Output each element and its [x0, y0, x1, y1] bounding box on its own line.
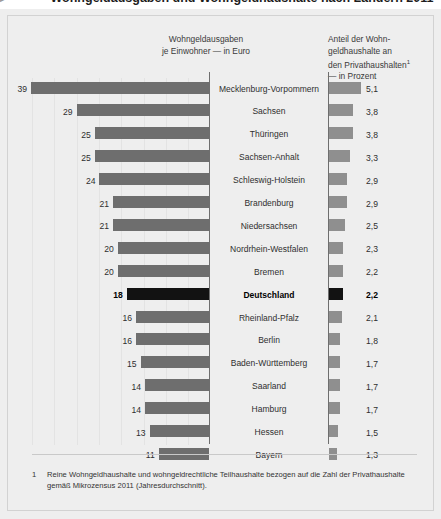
category-label: Berlin — [211, 335, 327, 345]
chart-row: 13Hessen1,5 — [8, 423, 435, 446]
left-bar — [99, 173, 209, 185]
left-bar — [95, 150, 209, 162]
left-value-label: 25 — [51, 153, 91, 163]
right-bar — [329, 82, 361, 94]
left-column-header: Wohngeldausgaben je Einwohner — in Euro — [118, 34, 294, 57]
chart-row: 39Mecklenburg-Vorpommern5,1 — [8, 79, 435, 102]
right-bar — [329, 311, 342, 323]
footnote-text: Reine Wohngeldhaushalte und wohngeldrech… — [47, 469, 422, 491]
right-bar — [329, 242, 343, 254]
right-bar — [329, 379, 340, 391]
page-title: Wohngeldausgaben und Wohngeldhaushalte n… — [51, 0, 434, 5]
left-value-label: 16 — [92, 336, 132, 346]
category-label: Mecklenburg-Vorpommern — [211, 84, 327, 94]
right-bar — [329, 288, 343, 300]
right-bar — [329, 196, 347, 208]
left-value-label: 21 — [69, 199, 109, 209]
left-bar — [95, 127, 209, 139]
right-column-header-line3: den Privathaushalten1 — [328, 57, 432, 71]
right-value-label: 1,7 — [366, 359, 378, 369]
chart-row: 21Brandenburg2,9 — [8, 194, 435, 217]
right-bar — [329, 219, 345, 231]
category-label: Brandenburg — [211, 198, 327, 208]
figure-panel-inner: Wohngeldausgaben je Einwohner — in Euro … — [7, 15, 434, 511]
chart-row: 14Saarland1,7 — [8, 377, 435, 400]
right-value-label: 1,8 — [366, 336, 378, 346]
right-column-header-line1: Anteil der Wohn- — [328, 34, 432, 46]
chart-row: 21Niedersachsen2,5 — [8, 216, 435, 239]
footnote-divider — [32, 454, 417, 455]
chart-row: 20Bremen2,2 — [8, 262, 435, 285]
left-bar — [118, 242, 209, 254]
left-value-label: 29 — [33, 107, 73, 117]
right-value-label: 5,1 — [366, 84, 378, 94]
right-value-label: 2,9 — [366, 199, 378, 209]
left-bar — [113, 196, 209, 208]
right-column-header: Anteil der Wohn- geldhaushalte an den Pr… — [328, 34, 432, 83]
left-value-label: 14 — [101, 382, 141, 392]
category-label: Sachsen-Anhalt — [211, 152, 327, 162]
right-bar — [329, 104, 353, 116]
category-label: Baden-Württemberg — [211, 358, 327, 368]
left-value-label: 16 — [92, 313, 132, 323]
chart-row: 20Nordrhein-Westfalen2,3 — [8, 239, 435, 262]
right-bar — [329, 150, 350, 162]
chart-row: 16Berlin1,8 — [8, 331, 435, 354]
right-value-label: 2,9 — [366, 176, 378, 186]
category-label: Schleswig-Holstein — [211, 175, 327, 185]
category-label: Hessen — [211, 427, 327, 437]
category-label: Niedersachsen — [211, 221, 327, 231]
right-column-header-line2: geldhaushalte an — [328, 46, 432, 58]
chart-row: 24Schleswig-Holstein2,9 — [8, 171, 435, 194]
left-column-header-line2: je Einwohner — in Euro — [118, 46, 294, 58]
right-value-label: 1,7 — [366, 405, 378, 415]
right-bar — [329, 173, 347, 185]
category-label: Deutschland — [211, 290, 327, 300]
right-value-label: 3,8 — [366, 130, 378, 140]
chart-row: 14Hamburg1,7 — [8, 400, 435, 423]
left-value-label: 18 — [83, 290, 123, 300]
chart-row: 18Deutschland2,2 — [8, 285, 435, 308]
right-value-label: 2,1 — [366, 313, 378, 323]
left-bar — [118, 265, 209, 277]
right-bar — [329, 356, 340, 368]
footnote-reference-marker: 1 — [407, 59, 410, 65]
right-bar — [329, 333, 340, 345]
footnote-text-line1: Reine Wohngeldhaushalte und wohngeldrech… — [47, 470, 405, 479]
right-bar — [329, 265, 343, 277]
chart-row: 16Rheinland-Pfalz2,1 — [8, 308, 435, 331]
left-value-label: 39 — [0, 84, 27, 94]
column-headers: Wohngeldausgaben je Einwohner — in Euro … — [8, 16, 435, 78]
left-bar — [127, 288, 209, 300]
right-value-label: 3,3 — [366, 153, 378, 163]
footnote-text-line2: gemäß Mikrozensus 2011 (Jahresdurchschni… — [47, 481, 207, 490]
right-bar — [329, 402, 340, 414]
chart-row: 15Baden-Württemberg1,7 — [8, 354, 435, 377]
left-column-header-line1: Wohngeldausgaben — [118, 34, 294, 46]
left-value-label: 21 — [69, 221, 109, 231]
right-value-label: 1,7 — [366, 382, 378, 392]
chart-row: 11Bayern1,3 — [8, 445, 435, 468]
right-value-label: 1,3 — [366, 450, 378, 460]
right-value-label: 2,2 — [366, 267, 378, 277]
figure-panel: Wohngeldausgaben je Einwohner — in Euro … — [0, 9, 441, 519]
right-value-label: 2,5 — [366, 221, 378, 231]
right-bar — [329, 127, 353, 139]
right-value-label: 2,3 — [366, 244, 378, 254]
category-label: Hamburg — [211, 404, 327, 414]
category-label: Bremen — [211, 267, 327, 277]
category-label: Saarland — [211, 381, 327, 391]
left-bar — [136, 311, 209, 323]
left-bar — [31, 82, 209, 94]
left-value-label: 11 — [115, 450, 155, 460]
left-bar — [145, 402, 209, 414]
figure-title-strip: ▸Abb 15Wohngeldausgaben und Wohngeldhaus… — [0, 0, 441, 9]
left-bar — [145, 379, 209, 391]
left-value-label: 20 — [74, 267, 114, 277]
right-value-label: 2,2 — [366, 290, 378, 300]
right-column-header-line3-text: den Privathaushalten — [328, 60, 407, 70]
chart-row: 25Thüringen3,8 — [8, 125, 435, 148]
footnote-number: 1 — [32, 469, 42, 480]
chart-row: 25Sachsen-Anhalt3,3 — [8, 148, 435, 171]
category-label: Nordrhein-Westfalen — [211, 244, 327, 254]
